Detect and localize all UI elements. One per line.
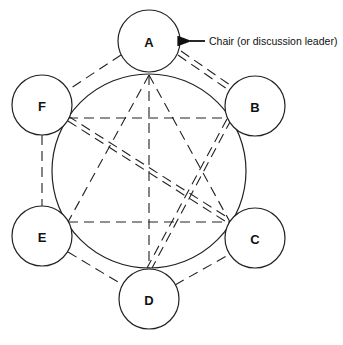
node-f: F — [12, 75, 72, 135]
node-c-label: C — [250, 232, 260, 247]
node-d: D — [119, 269, 179, 329]
node-d-label: D — [144, 293, 153, 308]
connection-d-c — [175, 254, 230, 285]
node-b: B — [225, 76, 285, 136]
connection-a-c — [149, 75, 230, 222]
node-f-label: F — [38, 99, 46, 114]
connection-b-d-1 — [147, 119, 227, 268]
node-a-label: A — [144, 35, 154, 50]
connection-f-c-2 — [68, 121, 228, 223]
node-b-label: B — [250, 100, 259, 115]
connection-a-e — [68, 75, 149, 222]
node-e: E — [12, 206, 72, 266]
connection-a-f — [68, 55, 121, 90]
chair-annotation: Chair (or discussion leader) — [209, 35, 337, 47]
node-c: C — [225, 208, 285, 268]
node-a: A — [118, 10, 180, 72]
connection-b-d-2 — [152, 120, 231, 268]
discussion-diagram: A B C D E F Chair (or discussion leader) — [0, 0, 343, 345]
node-e-label: E — [38, 230, 47, 245]
connection-e-d — [68, 252, 123, 285]
connection-a-b-2 — [181, 51, 230, 85]
connection-a-b-1 — [178, 55, 227, 89]
